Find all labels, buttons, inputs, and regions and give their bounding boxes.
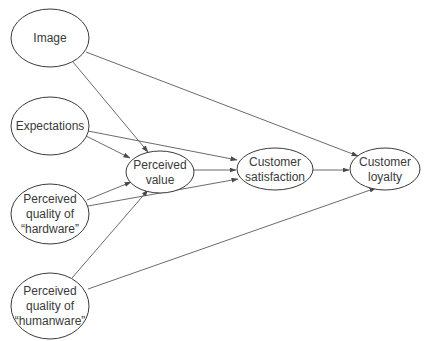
node-label: Perceived	[23, 192, 76, 206]
node-label: Customer	[249, 155, 301, 169]
node-label: “humanware”	[15, 314, 86, 328]
node-perceived-value: Perceivedvalue	[126, 151, 194, 193]
nodes-layer: ImageExpectationsPerceivedquality of“har…	[11, 9, 420, 339]
arrow-humanware-to-customer-loyalty	[88, 188, 376, 289]
node-customer-satisfaction: Customersatisfaction	[237, 148, 313, 190]
node-customer-loyalty: Customerloyalty	[350, 148, 420, 190]
node-label: quality of	[26, 207, 75, 221]
arrow-hardware-to-perceived-value	[87, 182, 131, 200]
node-label: “hardware”	[21, 222, 79, 236]
edges-layer	[72, 52, 376, 289]
node-humanware: Perceivedquality of“humanware”	[11, 273, 89, 339]
node-label: Perceived	[23, 284, 76, 298]
node-label: Image	[33, 31, 67, 45]
path-diagram: ImageExpectationsPerceivedquality of“har…	[0, 0, 428, 341]
node-label: Expectations	[16, 119, 85, 133]
node-label: satisfaction	[245, 170, 305, 184]
node-label: value	[146, 173, 175, 187]
node-hardware: Perceivedquality of“hardware”	[11, 184, 89, 244]
diagram-canvas: ImageExpectationsPerceivedquality of“har…	[0, 0, 428, 341]
node-image: Image	[11, 9, 89, 67]
arrow-image-to-customer-loyalty	[86, 52, 358, 156]
node-label: Perceived	[133, 158, 186, 172]
node-expectations: Expectations	[11, 97, 89, 155]
node-label: quality of	[26, 299, 75, 313]
node-label: loyalty	[368, 170, 402, 184]
node-label: Customer	[359, 155, 411, 169]
arrow-expectations-to-perceived-value	[86, 136, 130, 158]
